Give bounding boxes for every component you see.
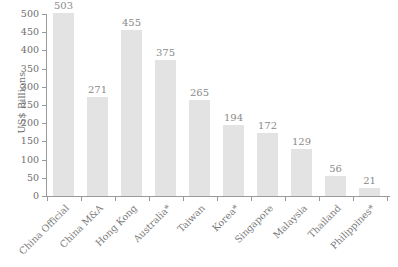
x-tick-mark	[149, 197, 150, 201]
x-tick-mark	[81, 197, 82, 201]
x-axis-line	[46, 196, 390, 197]
y-tick-mark	[42, 160, 46, 161]
y-tick-label: 200	[0, 118, 39, 128]
bar	[325, 176, 346, 196]
y-tick-label: 150	[0, 136, 39, 146]
x-tick-mark	[183, 197, 184, 201]
y-tick-mark	[42, 141, 46, 142]
y-tick-label: 450	[0, 27, 39, 37]
x-tick-mark	[251, 197, 252, 201]
bar	[223, 125, 244, 196]
bar	[189, 100, 210, 196]
bar-value-label: 56	[316, 164, 355, 174]
y-tick-mark	[42, 50, 46, 51]
bar	[359, 188, 380, 196]
y-tick-label: 400	[0, 45, 39, 55]
x-tick-mark	[285, 197, 286, 201]
bar-value-label: 503	[44, 1, 83, 11]
y-tick-label: 300	[0, 82, 39, 92]
y-tick-label: 0	[0, 191, 39, 201]
bar	[53, 13, 74, 196]
x-tick-mark	[217, 197, 218, 201]
x-tick-mark	[387, 197, 388, 201]
y-tick-mark	[42, 196, 46, 197]
bar	[121, 30, 142, 196]
bar	[257, 133, 278, 196]
x-tick-mark	[115, 197, 116, 201]
bar-value-label: 172	[248, 121, 287, 131]
y-tick-label: 100	[0, 155, 39, 165]
y-tick-mark	[42, 69, 46, 70]
y-tick-label: 50	[0, 173, 39, 183]
bar-value-label: 265	[180, 88, 219, 98]
x-tick-mark	[353, 197, 354, 201]
x-tick-mark	[47, 197, 48, 201]
x-category-label: China Official	[0, 203, 70, 267]
y-tick-label: 500	[0, 9, 39, 19]
y-tick-mark	[42, 178, 46, 179]
bar-value-label: 375	[146, 48, 185, 58]
y-axis-line	[46, 14, 47, 196]
y-tick-mark	[42, 105, 46, 106]
x-tick-mark	[319, 197, 320, 201]
bar	[291, 149, 312, 196]
y-tick-label: 350	[0, 64, 39, 74]
y-tick-mark	[42, 87, 46, 88]
y-tick-mark	[42, 123, 46, 124]
bar	[155, 60, 176, 197]
y-tick-label: 250	[0, 100, 39, 110]
bar-value-label: 455	[112, 18, 151, 28]
bar-chart: US$ Billions 500450400350300250200150100…	[0, 0, 398, 267]
y-tick-mark	[42, 14, 46, 15]
bar	[87, 97, 108, 196]
bar-value-label: 21	[350, 176, 389, 186]
bar-value-label: 271	[78, 85, 117, 95]
y-tick-mark	[42, 32, 46, 33]
bar-value-label: 129	[282, 137, 321, 147]
